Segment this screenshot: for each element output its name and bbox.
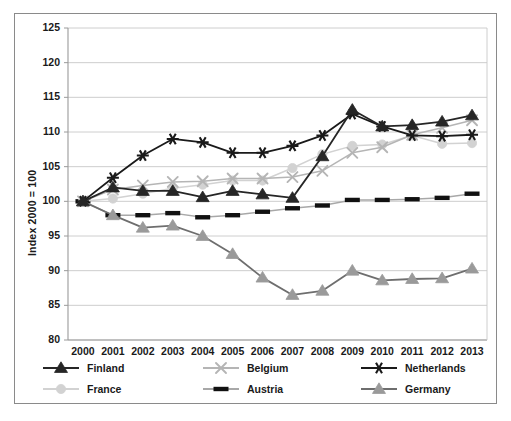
legend-label: Finland bbox=[87, 362, 124, 374]
axis-lines bbox=[64, 28, 487, 340]
legend-item-netherlands[interactable]: Netherlands bbox=[359, 359, 466, 377]
series-germany bbox=[76, 195, 478, 299]
legend-marker-icon bbox=[359, 360, 399, 376]
chart-figure: Index 2000 = 100 12512011511010510095908… bbox=[0, 0, 511, 421]
legend-label: Austria bbox=[247, 383, 283, 395]
legend-label: Germany bbox=[405, 383, 451, 395]
legend-label: Netherlands bbox=[405, 362, 466, 374]
plot-canvas bbox=[0, 0, 511, 421]
legend-item-belgium[interactable]: Belgium bbox=[201, 359, 288, 377]
legend-marker-icon bbox=[359, 381, 399, 397]
legend-label: Belgium bbox=[247, 362, 288, 374]
series-finland bbox=[76, 104, 478, 206]
legend-item-germany[interactable]: Germany bbox=[359, 380, 451, 398]
series-netherlands bbox=[77, 109, 478, 207]
gridlines bbox=[68, 28, 487, 340]
legend-item-austria[interactable]: Austria bbox=[201, 380, 283, 398]
legend-item-france[interactable]: France bbox=[41, 380, 121, 398]
legend-label: France bbox=[87, 383, 121, 395]
chart-legend: FinlandBelgiumNetherlandsFranceAustriaGe… bbox=[41, 359, 471, 401]
legend-marker-icon bbox=[41, 360, 81, 376]
legend-marker-icon bbox=[201, 381, 241, 397]
legend-marker-icon bbox=[201, 360, 241, 376]
legend-marker-icon bbox=[41, 381, 81, 397]
legend-item-finland[interactable]: Finland bbox=[41, 359, 124, 377]
